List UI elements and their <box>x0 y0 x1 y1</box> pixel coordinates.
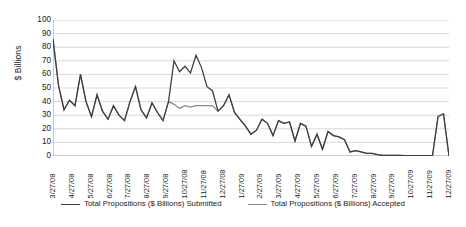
x-axis-tick-label: 5/27/08 <box>86 173 93 198</box>
x-axis-tick-label: 7/27/09 <box>350 173 357 198</box>
y-axis-tick-label: 20 <box>26 125 51 133</box>
series-line <box>53 39 449 156</box>
y-axis-tick-label: 60 <box>26 70 51 78</box>
x-axis-tick-label: 3/27/09 <box>275 173 282 198</box>
y-axis-tick-label: 90 <box>26 30 51 38</box>
x-axis-tick-label: 11/27/09 <box>426 170 433 198</box>
x-axis-tick-label: 10/27/09 <box>407 169 414 198</box>
series-line <box>53 39 449 156</box>
y-axis-tick-label: 70 <box>26 57 51 65</box>
x-axis-tick-label: 10/27/08 <box>181 169 188 198</box>
x-axis-tick-label: 9/27/09 <box>388 173 395 198</box>
x-axis-tick-label: 6/27/09 <box>331 173 338 198</box>
x-axis-tick-label: 6/27/08 <box>105 173 112 198</box>
x-axis-tick-label: 1/27/09 <box>237 173 244 198</box>
y-axis-tick-label: 0 <box>26 152 51 160</box>
x-axis-tick-label: 12/27/08 <box>218 169 225 198</box>
y-axis-tick-label: 40 <box>26 98 51 106</box>
y-axis-tick-label: 30 <box>26 111 51 119</box>
line-chart: $ Billions 1009080706050403020100 3/27/0… <box>0 0 466 227</box>
x-axis-tick-label: 8/27/09 <box>369 173 376 198</box>
legend-color-swatch <box>61 204 80 205</box>
x-axis-tick-label: 12/27/09 <box>445 169 452 198</box>
x-axis-tick-label: 3/27/08 <box>49 173 56 198</box>
chart-legend: Total Propositions ($ Billions) Submitte… <box>0 196 466 212</box>
x-axis-tick-label: 4/27/08 <box>67 173 74 198</box>
legend-item[interactable]: Total Propositions ($ Billions) Submitte… <box>61 200 221 208</box>
y-axis-tick-labels: 1009080706050403020100 <box>26 14 51 162</box>
legend-label: Total Propositions ($ Billions) Submitte… <box>84 200 221 208</box>
y-axis-tick-label: 10 <box>26 138 51 146</box>
x-axis-tick-label: 7/27/08 <box>124 173 131 198</box>
y-axis-title: $ Billions <box>13 23 23 103</box>
x-axis-tick-label: 9/27/08 <box>162 173 169 198</box>
legend-color-swatch <box>248 204 267 205</box>
y-axis-tick-label: 80 <box>26 43 51 51</box>
y-axis-tick-label: 50 <box>26 84 51 92</box>
x-axis-tick-label: 11/27/08 <box>199 170 206 198</box>
plot-area <box>53 20 449 156</box>
x-axis-tick-label: 8/27/08 <box>143 173 150 198</box>
series-lines <box>53 20 449 156</box>
x-axis-tick-label: 4/27/09 <box>294 173 301 198</box>
x-axis-tick-labels: 3/27/084/27/085/27/086/27/087/27/088/27/… <box>53 158 449 198</box>
y-axis-tick-label: 100 <box>26 16 51 24</box>
legend-label: Total Propositions ($ Billions) Accepted <box>271 200 405 208</box>
x-axis-tick-label: 5/27/09 <box>313 173 320 198</box>
legend-item[interactable]: Total Propositions ($ Billions) Accepted <box>248 200 405 208</box>
x-axis-tick-label: 2/27/09 <box>256 173 263 198</box>
